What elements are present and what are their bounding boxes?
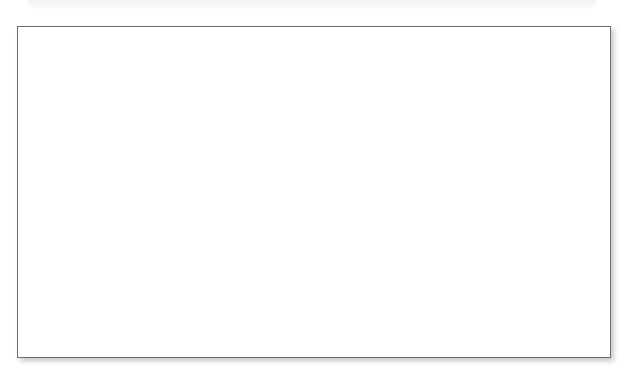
genogram-page	[0, 0, 628, 385]
top-banner-strip	[28, 0, 596, 9]
genogram-figure-frame	[17, 26, 611, 358]
